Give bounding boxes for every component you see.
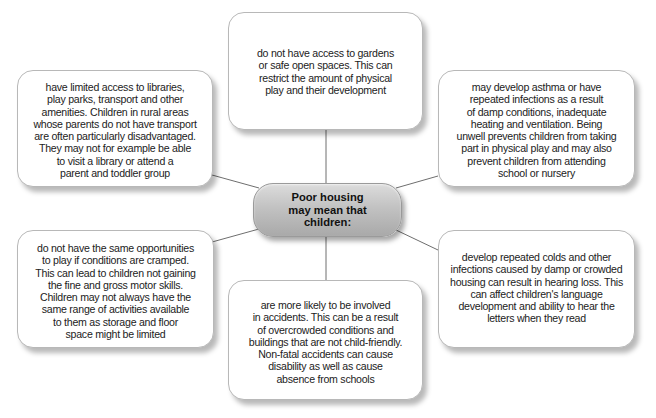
branch-box-bottom: are more likely to be involved in accide… (228, 280, 423, 400)
branch-text: are more likely to be involved in accide… (249, 299, 402, 399)
branch-text: do not have the same opportunities to pl… (35, 242, 195, 347)
branch-box-top: do not have access to gardens or safe op… (228, 12, 423, 130)
connector-top-left (212, 175, 259, 188)
central-topic-label: Poor housing may mean that children: (288, 191, 366, 229)
branch-text: have limited access to libraries, play p… (33, 81, 196, 186)
connector-bottom-left (212, 229, 259, 242)
branch-box-bottom-left: do not have the same opportunities to pl… (17, 230, 214, 348)
branch-box-top-left: have limited access to libraries, play p… (17, 70, 213, 187)
central-topic: Poor housing may mean that children: (253, 183, 402, 237)
connector-top-right (396, 176, 438, 188)
branch-box-top-right: may develop asthma or have repeated infe… (438, 70, 635, 187)
branch-box-bottom-right: develop repeated colds and other infecti… (438, 230, 635, 348)
branch-text: may develop asthma or have repeated infe… (457, 81, 617, 186)
connector-bottom-right (396, 230, 438, 250)
branch-text: do not have access to gardens or safe op… (257, 47, 394, 129)
branch-text: develop repeated colds and other infecti… (450, 251, 623, 347)
